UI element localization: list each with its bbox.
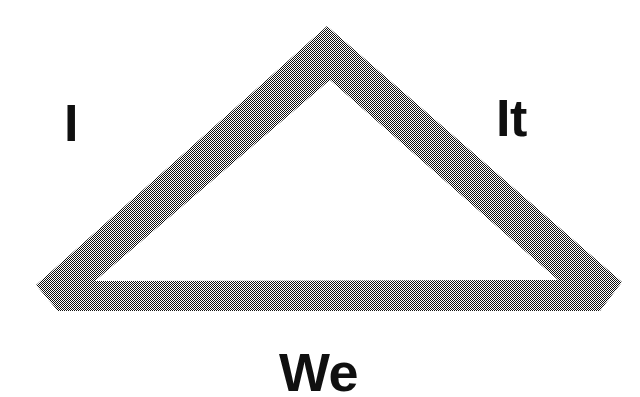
triangle-diagram [0, 0, 640, 397]
diagram-canvas: I It We [0, 0, 640, 397]
triangle-label-it: It [496, 92, 527, 144]
triangle-outline-shape [0, 0, 640, 397]
triangle-label-i: I [64, 97, 78, 149]
triangle-label-we: We [279, 345, 358, 397]
